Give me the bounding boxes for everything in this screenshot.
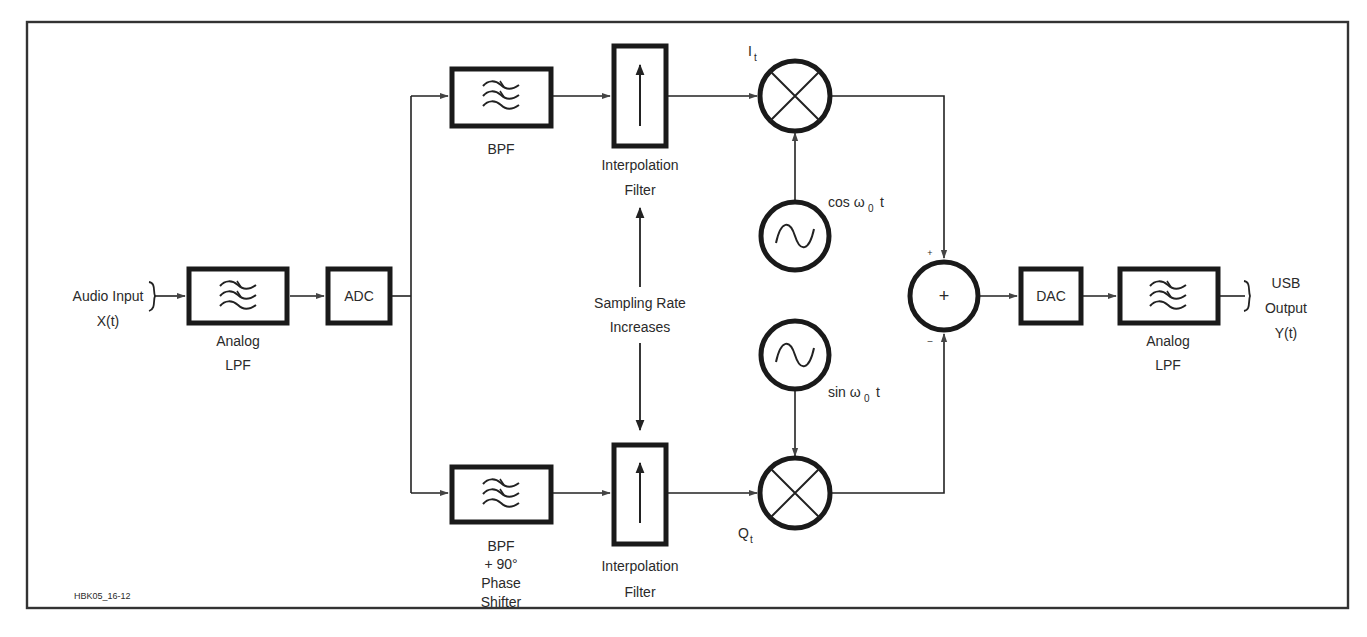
input-brace-icon — [149, 282, 155, 311]
mixer-bottom: Q t — [738, 458, 830, 545]
audio-input-signal: X(t) — [97, 313, 120, 329]
bpf-top-label: BPF — [487, 141, 514, 157]
sampling-rate-annotation: Sampling Rate Increases — [594, 208, 686, 430]
wire-mixer-top-to-summer — [832, 96, 944, 258]
interp-bottom-label-2: Filter — [624, 584, 655, 600]
audio-input: Audio Input X(t) — [73, 282, 155, 329]
adc-label: ADC — [344, 288, 374, 304]
usb-output: USB Output Y(t) — [1244, 275, 1307, 341]
osc-cos-t: t — [880, 194, 884, 210]
oscillator-sin: sin ω 0 t — [761, 321, 880, 404]
input-lpf-label-2: LPF — [225, 357, 251, 373]
oscillator-cos: cos ω 0 t — [761, 194, 884, 270]
interp-top-label-1: Interpolation — [601, 157, 678, 173]
summer-block: + + – — [910, 248, 978, 346]
bpf-bottom-block: BPF + 90° Phase Shifter — [452, 467, 551, 610]
bpf-bottom-label-2: + 90° — [484, 556, 517, 572]
output-label-2: Output — [1265, 300, 1307, 316]
osc-cos-sub: 0 — [868, 203, 874, 214]
mixer-bottom-label-sub: t — [750, 534, 753, 545]
output-analog-lpf-block: Analog LPF — [1120, 269, 1218, 373]
osc-sin-sub: 0 — [864, 393, 870, 404]
mixer-top: I t — [748, 43, 830, 131]
dac-block: DAC — [1021, 269, 1081, 323]
mixer-bottom-label: Q — [738, 525, 749, 541]
output-lpf-label-1: Analog — [1146, 333, 1190, 349]
summer-minus-sign: – — [927, 336, 932, 346]
osc-cos-label: cos ω — [828, 194, 865, 210]
figure-id: HBK05_16-12 — [74, 591, 131, 601]
bpf-top-block: BPF — [452, 69, 551, 157]
annotation-label-2: Increases — [610, 319, 671, 335]
bpf-bottom-label-1: BPF — [487, 538, 514, 554]
interp-bottom-label-1: Interpolation — [601, 558, 678, 574]
interp-top-label-2: Filter — [624, 182, 655, 198]
osc-sin-label: sin ω — [828, 384, 861, 400]
summer-plus-icon: + — [939, 286, 950, 306]
wire-mixer-bottom-to-summer — [832, 334, 944, 493]
annotation-label-1: Sampling Rate — [594, 295, 686, 311]
ssb-generator-block-diagram: Audio Input X(t) Analog LPF ADC BPF BPF … — [0, 0, 1367, 637]
mixer-top-label-sub: t — [754, 52, 757, 63]
summer-plus-sign: + — [927, 248, 932, 258]
interpolation-filter-bottom: Interpolation Filter — [601, 445, 678, 600]
bpf-bottom-label-3: Phase — [481, 575, 521, 591]
interpolation-filter-top: Interpolation Filter — [601, 46, 678, 198]
adc-block: ADC — [328, 269, 390, 323]
output-signal: Y(t) — [1275, 325, 1298, 341]
input-lpf-label-1: Analog — [216, 333, 260, 349]
output-lpf-label-2: LPF — [1155, 357, 1181, 373]
osc-sin-t: t — [876, 384, 880, 400]
mixer-top-label: I — [748, 43, 752, 59]
output-label-1: USB — [1272, 275, 1301, 291]
dac-label: DAC — [1036, 288, 1066, 304]
input-analog-lpf-block: Analog LPF — [189, 269, 287, 373]
bpf-bottom-label-4: Shifter — [481, 594, 522, 610]
audio-input-label: Audio Input — [73, 288, 144, 304]
